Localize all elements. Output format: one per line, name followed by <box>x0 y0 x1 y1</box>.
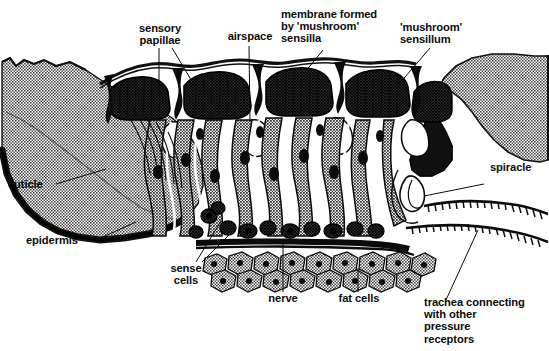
label-airspace: airspace <box>218 30 282 42</box>
leader-spiracle <box>424 184 484 196</box>
mushroom-sensillum-group <box>110 68 452 122</box>
sense-cell-columns <box>144 118 406 236</box>
label-trachea-connecting: trachea connecting with other pressure r… <box>424 296 544 345</box>
label-fat-cells: fat cells <box>331 292 387 304</box>
label-sense-cells: sense cells <box>163 262 209 286</box>
trachea-group <box>406 201 548 247</box>
label-membrane-formed-by-mushroom-sensilla: membrane formed by 'mushroom' sensilla <box>281 8 397 45</box>
label-nerve: nerve <box>261 292 305 304</box>
label-mushroom-sensillum: 'mushroom' sensillum <box>400 21 496 45</box>
label-spiracle: spiracle <box>490 161 548 173</box>
diagram-canvas: sensory papillae airspace membrane forme… <box>0 0 549 351</box>
nerve-band <box>196 239 414 256</box>
leader-trachea <box>446 230 478 300</box>
fat-cells-group <box>203 252 436 292</box>
label-epidermis: epidermis <box>26 234 96 246</box>
label-sensory-papillae: sensory papillae <box>118 22 202 46</box>
label-cuticle: cuticle <box>8 178 56 190</box>
